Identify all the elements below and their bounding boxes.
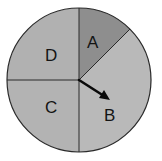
- spinner-diagram: A B C D: [0, 0, 162, 161]
- section-c-label: C: [45, 98, 57, 117]
- section-a-label: A: [87, 33, 99, 52]
- section-d: [7, 8, 79, 80]
- section-d-label: D: [45, 46, 57, 65]
- section-b-label: B: [104, 106, 115, 125]
- section-c: [7, 80, 79, 152]
